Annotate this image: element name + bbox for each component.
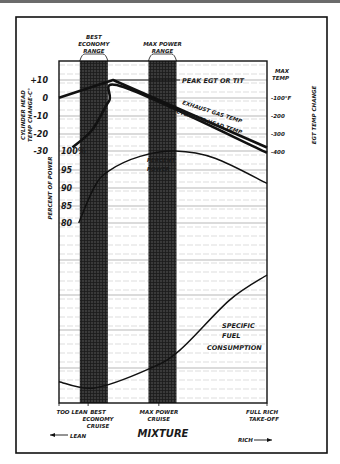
left-top-tick-label: +10: [30, 76, 48, 85]
left-bottom-tick-label: 100%: [61, 147, 86, 156]
label-sfc: SPECIFIC: [222, 322, 255, 330]
left-bottom-tick-label: 80: [61, 219, 73, 228]
mixture-chart: BESTECONOMYRANGEMAX POWERRANGE PEAK EGT …: [0, 0, 340, 464]
left-top-tick-label: -10: [34, 112, 49, 121]
band-label: MAX POWER: [143, 41, 182, 47]
label-sfc: CONSUMPTION: [207, 344, 262, 352]
right-tick-label: -200: [271, 113, 285, 119]
right-tick-label: -300: [271, 131, 285, 137]
right-tick-label: TEMP: [272, 75, 289, 81]
x-tick-label: BEST: [90, 409, 107, 415]
x-tick-label: CRUISE: [148, 416, 171, 422]
lean-label: LEAN: [70, 433, 87, 439]
band-max-power: [148, 61, 176, 403]
band-label: RANGE: [152, 48, 174, 54]
left-top-tick-label: -30: [34, 147, 49, 156]
left-top-axis-title-1: CYLINDER HEAD: [20, 90, 26, 140]
left-top-axis-title-2: TEMP CHANGE-C°: [27, 88, 33, 142]
annotation-peak-egt: PEAK EGT OR TIT: [182, 77, 245, 85]
band-label: RANGE: [83, 48, 105, 54]
left-top-tick-label: 0: [42, 94, 48, 103]
right-tick-label: -400: [271, 149, 285, 155]
band-bracket: [80, 54, 108, 61]
band-label: BEST: [86, 34, 103, 40]
x-tick-label: FULL RICH: [246, 409, 278, 415]
rich-label: RICH: [238, 437, 253, 443]
band-bracket: [148, 54, 176, 61]
label-sfc: FUEL: [222, 332, 240, 340]
right-axis-title: EGT TEMP CHANGE: [311, 85, 317, 144]
x-tick-label: TAKE-OFF: [249, 416, 279, 422]
band-label: ECONOMY: [78, 41, 110, 47]
lean-arrow-head: [50, 433, 55, 437]
left-bottom-tick-label: 85: [61, 202, 73, 211]
x-axis-title: MIXTURE: [138, 428, 189, 439]
right-tick-label: -100°F: [271, 95, 292, 101]
label-percent-power-1: PERCENT: [147, 157, 176, 163]
left-bottom-tick-label: 90: [61, 184, 73, 193]
x-tick-label: ECONOMY: [82, 416, 114, 422]
rich-arrow-head: [267, 438, 272, 442]
label-percent-power-2: POWER: [147, 166, 170, 172]
x-tick-label: CRUISE: [87, 423, 110, 429]
x-tick-label: MAX POWER: [140, 409, 179, 415]
left-bottom-tick-label: 95: [61, 166, 73, 175]
right-tick-label: MAX: [275, 68, 290, 74]
left-top-tick-label: -20: [34, 130, 49, 139]
x-tick-label: TOO LEAN: [56, 409, 88, 415]
left-bottom-axis-title: PERCENT OF POWER: [47, 156, 53, 219]
